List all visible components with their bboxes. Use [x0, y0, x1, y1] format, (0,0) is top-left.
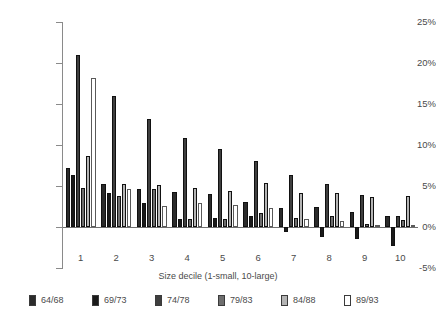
bar [401, 220, 405, 227]
x-axis-tick-label: 6 [243, 252, 273, 263]
bar [243, 202, 247, 227]
y-axis-tick [56, 104, 63, 105]
legend-label: 69/73 [104, 295, 127, 305]
bar [228, 191, 232, 227]
legend-label: 84/88 [293, 295, 316, 305]
legend-swatch [92, 295, 99, 306]
legend-swatch [344, 295, 351, 306]
bar [335, 193, 339, 227]
bar [411, 225, 415, 227]
legend-item: 79/83 [218, 295, 281, 306]
bar [208, 194, 212, 227]
bar [152, 189, 156, 227]
bar [122, 184, 126, 227]
legend-item: 89/93 [344, 295, 407, 306]
chart-legend: 64/6869/7374/7879/8384/8889/93 [0, 291, 436, 309]
legend-label: 74/78 [167, 295, 190, 305]
legend-label: 64/68 [41, 295, 64, 305]
x-axis-tick-label: 1 [66, 252, 96, 263]
legend-label: 79/83 [230, 295, 253, 305]
x-axis-tick-label: 4 [172, 252, 202, 263]
bar [396, 216, 400, 227]
bar [117, 196, 121, 227]
bar [183, 138, 187, 227]
bar [71, 175, 75, 227]
bar [76, 55, 80, 227]
bar [259, 213, 263, 227]
x-axis-tick-label: 3 [137, 252, 167, 263]
bar [355, 227, 359, 239]
bar [193, 188, 197, 227]
y-axis-tick [56, 22, 63, 23]
bar [147, 119, 151, 227]
legend-swatch [281, 295, 288, 306]
bar [284, 227, 288, 232]
bar [178, 219, 182, 227]
legend-swatch [155, 295, 162, 306]
bar [112, 96, 116, 227]
bar [360, 195, 364, 227]
bar [137, 189, 141, 227]
bar [188, 219, 192, 227]
x-axis-tick-label: 2 [101, 252, 131, 263]
bar [157, 185, 161, 227]
bar [107, 193, 111, 227]
legend-swatch [218, 295, 225, 306]
x-axis-tick-label: 9 [350, 252, 380, 263]
bar [320, 227, 324, 237]
bar [294, 218, 298, 227]
bar [330, 216, 334, 227]
legend-item: 69/73 [92, 295, 155, 306]
x-axis-tick-label: 5 [208, 252, 238, 263]
bar [365, 224, 369, 227]
bar [314, 207, 318, 227]
bar [162, 206, 166, 227]
bar [350, 212, 354, 227]
y-axis-tick [56, 145, 63, 146]
bar [289, 175, 293, 227]
legend-item: 64/68 [29, 295, 92, 306]
x-axis-tick-label: 8 [314, 252, 344, 263]
bar [279, 208, 283, 227]
x-axis-title: Size decile (1-small, 10-large) [0, 271, 436, 281]
bar [127, 189, 131, 227]
bar [142, 203, 146, 227]
bar [254, 161, 258, 227]
bar [86, 156, 90, 227]
bar [391, 227, 395, 246]
bar [66, 168, 70, 227]
legend-item: 84/88 [281, 295, 344, 306]
bar [101, 184, 105, 227]
bar [325, 184, 329, 227]
bar [385, 216, 389, 227]
bar [264, 183, 268, 227]
y-axis-tick [56, 227, 63, 228]
x-axis-tick-label: 7 [279, 252, 309, 263]
bar [198, 203, 202, 227]
bar [233, 205, 237, 227]
bar [304, 219, 308, 227]
legend-item: 74/78 [155, 295, 218, 306]
bar [340, 221, 344, 227]
bar [375, 225, 379, 227]
legend-label: 89/93 [356, 295, 379, 305]
bar [299, 193, 303, 227]
bar-chart: -5%0%5%10%15%20%25% 12345678910 Size dec… [0, 0, 436, 314]
bar [223, 219, 227, 227]
bar [406, 196, 410, 227]
y-axis-tick [56, 63, 63, 64]
plot-area [63, 22, 418, 246]
y-axis-tick [56, 186, 63, 187]
bar [370, 197, 374, 227]
y-axis-tick [56, 268, 63, 269]
bar [81, 188, 85, 227]
legend-swatch [29, 295, 36, 306]
bar [218, 149, 222, 227]
bar [172, 192, 176, 227]
bar [213, 218, 217, 227]
bar [269, 208, 273, 227]
bar [91, 78, 95, 227]
x-axis-tick-label: 10 [385, 252, 415, 263]
bar [249, 216, 253, 227]
